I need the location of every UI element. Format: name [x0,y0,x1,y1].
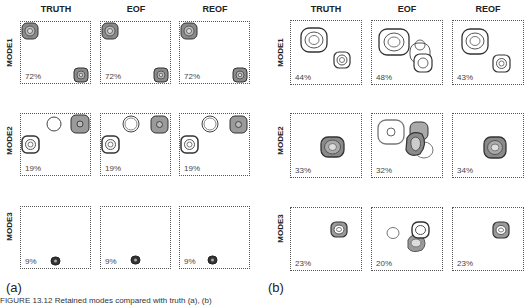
variance-label: 23% [457,259,473,268]
plot-b-reof-mode2: 34% [452,113,524,178]
row-header-b-mode2: MODE2 [276,121,285,161]
col-header-b-eof: EOF [371,4,443,14]
plot-a-eof-mode2: 19% [100,113,171,176]
variance-label: 19% [105,164,121,173]
variance-label: 72% [25,72,41,81]
plot-b-eof-mode2: 32% [371,113,443,178]
plot-a-reof-mode1: 72% [179,21,250,84]
variance-label: 33% [295,166,311,175]
plot-a-truth-mode1: 72% [20,21,91,84]
plot-b-eof-mode1: 48% [371,20,443,85]
plot-b-reof-mode1: 43% [452,20,524,85]
variance-label: 43% [457,73,473,82]
variance-label: 32% [376,166,392,175]
variance-label: 72% [184,72,200,81]
plot-b-reof-mode3: 23% [452,207,524,271]
plot-a-reof-mode3: 9% [179,206,250,269]
plot-b-eof-mode3: 20% [371,207,443,271]
figure-caption: FIGURE 13.12 Retained modes compared wit… [0,296,212,305]
col-header-a-eof: EOF [100,4,172,14]
plot-a-eof-mode1: 72% [100,21,171,84]
variance-label: 19% [184,164,200,173]
col-header-a-reof: REOF [179,4,251,14]
plot-b-truth-mode2: 33% [290,113,362,178]
row-header-b-mode3: MODE3 [276,209,285,249]
variance-label: 20% [376,259,392,268]
variance-label: 72% [105,72,121,81]
row-header-a-mode2: MODE2 [5,121,14,161]
col-header-a-truth: TRUTH [20,4,92,14]
variance-label: 34% [457,166,473,175]
plot-b-truth-mode1: 44% [290,20,362,85]
plot-a-truth-mode3: 9% [20,206,91,269]
variance-label: 44% [295,73,311,82]
variance-label: 23% [295,259,311,268]
col-header-b-reof: REOF [452,4,524,14]
plot-a-eof-mode3: 9% [100,206,171,269]
variance-label: 9% [105,257,117,266]
row-header-a-mode3: MODE3 [5,207,14,247]
plot-a-truth-mode2: 19% [20,113,91,176]
variance-label: 9% [184,257,196,266]
variance-label: 9% [25,257,37,266]
plot-b-truth-mode3: 23% [290,207,362,271]
row-header-b-mode1: MODE1 [276,33,285,73]
variance-label: 48% [376,73,392,82]
row-header-a-mode1: MODE1 [5,33,14,73]
col-header-b-truth: TRUTH [290,4,362,14]
variance-label: 19% [25,164,41,173]
panel-a-label: (a) [6,280,22,295]
plot-a-reof-mode2: 19% [179,113,250,176]
panel-b-label: (b) [268,280,284,295]
